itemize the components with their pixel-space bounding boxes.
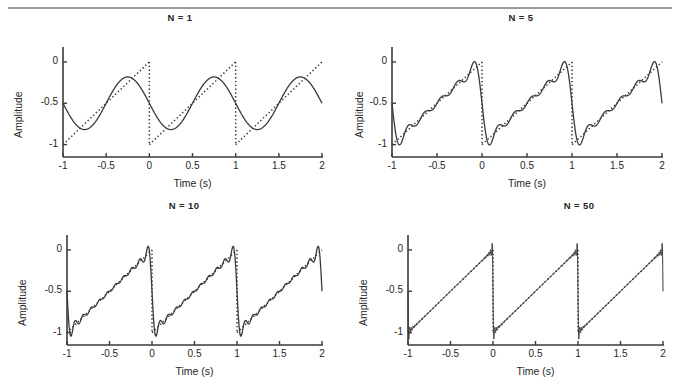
y-tick-label: -0.5 [372, 284, 403, 295]
x-tick-label: 0 [478, 348, 508, 359]
y-axis-label: Amplitude [357, 279, 369, 326]
x-tick-label: 2 [307, 348, 337, 359]
y-tick-label: -1 [356, 138, 387, 149]
x-tick-label: -0.5 [95, 348, 125, 359]
x-tick-label: -1 [48, 160, 78, 171]
y-tick-label: 0 [372, 243, 403, 254]
panel-n10: N = 10 Amplitude Time (s) -1-0.500.511.5… [0, 198, 340, 387]
y-tick-label: -1 [372, 326, 403, 337]
y-tick-label: 0 [31, 243, 62, 254]
x-tick-label: 1 [222, 348, 252, 359]
x-tick-label: 0 [467, 160, 497, 171]
x-tick-label: 2 [307, 160, 337, 171]
y-tick-label: -0.5 [356, 96, 387, 107]
x-axis-label: Time (s) [148, 177, 238, 189]
x-tick-label: 1.5 [606, 348, 636, 359]
x-tick-label: 1.5 [602, 160, 632, 171]
top-horizontal-rule [8, 7, 672, 9]
x-tick-label: 2 [647, 160, 677, 171]
x-tick-label: 0 [134, 160, 164, 171]
panel-n50: N = 50 Amplitude Time (s) -1-0.500.511.5… [341, 198, 681, 387]
x-tick-label: 0 [137, 348, 167, 359]
y-tick-label: -1 [27, 138, 58, 149]
x-tick-label: 0.5 [178, 160, 208, 171]
x-tick-label: -1 [393, 348, 423, 359]
x-tick-label: 1.5 [265, 348, 295, 359]
x-axis-label: Time (s) [491, 365, 581, 377]
y-axis-label: Amplitude [16, 279, 28, 326]
x-axis-label: Time (s) [482, 177, 572, 189]
x-tick-label: -0.5 [422, 160, 452, 171]
y-tick-label: 0 [356, 55, 387, 66]
x-tick-label: 1.5 [264, 160, 294, 171]
y-tick-label: 0 [27, 55, 58, 66]
x-tick-label: -0.5 [91, 160, 121, 171]
x-tick-label: -0.5 [436, 348, 466, 359]
figure-fourier-sawtooth-panels: N = 1 Amplitude Time (s) -1-0.500.511.52… [0, 0, 681, 387]
x-tick-label: 0.5 [180, 348, 210, 359]
x-tick-label: -1 [377, 160, 407, 171]
x-tick-label: 2 [648, 348, 678, 359]
y-tick-label: -0.5 [27, 96, 58, 107]
y-tick-label: -1 [31, 326, 62, 337]
y-tick-label: -0.5 [31, 284, 62, 295]
y-axis-label: Amplitude [12, 91, 24, 138]
x-tick-label: 1 [557, 160, 587, 171]
panel-n1: N = 1 Amplitude Time (s) -1-0.500.511.52… [0, 10, 340, 203]
panel-n5: N = 5 Amplitude Time (s) -1-0.500.511.52… [341, 10, 681, 203]
x-tick-label: 1 [221, 160, 251, 171]
x-tick-label: 1 [563, 348, 593, 359]
plot-n5 [341, 10, 681, 203]
x-axis-label: Time (s) [150, 365, 240, 377]
x-tick-label: -1 [52, 348, 82, 359]
x-tick-label: 0.5 [521, 348, 551, 359]
x-tick-label: 0.5 [512, 160, 542, 171]
